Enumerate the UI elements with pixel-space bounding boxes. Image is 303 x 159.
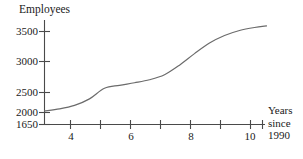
x-tick-label-8: 8 (181, 130, 201, 142)
y-tick-label-3500: 3500 (8, 25, 38, 37)
y-tick-label-1650: 1650 (8, 118, 38, 130)
x-tick-label-6: 6 (121, 130, 141, 142)
y-tick-label-2000: 2000 (8, 106, 38, 118)
y-axis-title: Employees (19, 3, 70, 15)
x-axis-title-line-2: since (268, 117, 293, 130)
data-series-line (45, 26, 267, 111)
x-axis-title: Years since 1990 (268, 104, 293, 142)
y-tick-label-2500: 2500 (8, 86, 38, 98)
x-axis-title-line-1: Years (268, 104, 293, 117)
x-tick-label-10: 10 (240, 130, 260, 142)
x-axis-title-line-3: 1990 (268, 129, 293, 142)
x-tick-label-4: 4 (61, 130, 81, 142)
y-tick-label-3000: 3000 (8, 55, 38, 67)
employees-line-chart: Employees 3500 3000 2500 2000 1650 4 6 8… (0, 0, 303, 159)
